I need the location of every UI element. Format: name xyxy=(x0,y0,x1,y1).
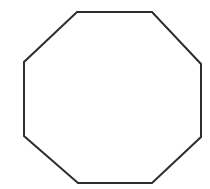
octagon-figure: Regular octagon outline xyxy=(0,0,210,189)
figure-canvas: Regular octagon outline xyxy=(0,0,210,189)
octagon-shape xyxy=(24,12,201,183)
